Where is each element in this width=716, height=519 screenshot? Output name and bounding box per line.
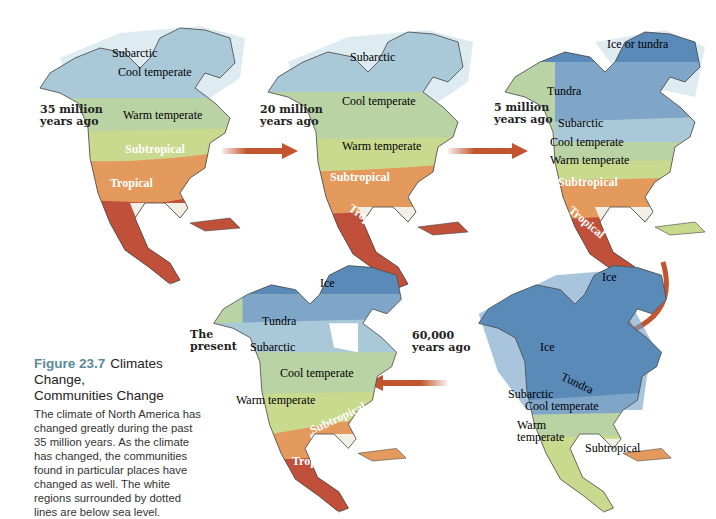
era-label-5-million: 5 million years ago	[494, 102, 553, 126]
zone-label: Ice	[320, 276, 335, 291]
figure-title-line2: Communities Change	[34, 388, 164, 403]
zone-label: Subarctic	[350, 50, 395, 65]
zone-label: Subtropical	[558, 175, 618, 190]
zone-label: Cool temperate	[525, 399, 599, 414]
figure-number: Figure 23.7	[34, 356, 105, 371]
era-label-present: The present	[190, 329, 237, 353]
map-the-present: Ice Tundra Subarctic Cool temperate Warm…	[200, 256, 415, 511]
zone-label: Subarctic	[558, 116, 603, 131]
zone-label: Ice	[540, 340, 555, 355]
zone-label: Subtropical	[330, 170, 390, 185]
zone-label: Cool temperate	[342, 94, 416, 109]
zone-label: Cool temperate	[118, 65, 192, 80]
zone-label: Subarctic	[250, 340, 295, 355]
zone-label: Subtropical	[585, 441, 640, 456]
figure-caption: Figure 23.7Climates Change, Communities …	[34, 356, 204, 519]
era-line: years ago	[40, 116, 103, 128]
map-60000-years-ago: Ice Ice Tundra Subarctic Cool temperate …	[465, 256, 680, 511]
zone-label: Ice or tundra	[607, 37, 668, 52]
era-line: years ago	[412, 342, 471, 354]
zone-label: temperate	[517, 430, 564, 445]
era-label-35-million: 35 million years ago	[40, 104, 103, 128]
figure-body: The climate of North America has changed…	[34, 407, 204, 519]
map-35-million-years-ago: Subarctic Cool temperate Warm temperate …	[30, 18, 245, 283]
era-line: years ago	[260, 116, 323, 128]
zone-label: Warm temperate	[236, 393, 315, 408]
map-5-million-years-ago: Ice or tundra Tundra Subarctic Cool temp…	[495, 22, 710, 287]
figure-title: Figure 23.7Climates Change, Communities …	[34, 356, 204, 404]
zone-label: Tundra	[262, 314, 296, 329]
zone-label: Subarctic	[112, 46, 157, 61]
map-20-million-years-ago: Subarctic Cool temperate Warm temperate …	[258, 22, 473, 287]
era-line: present	[190, 341, 237, 353]
zone-label: Tropical	[292, 454, 335, 469]
zone-label: Warm temperate	[123, 108, 202, 123]
zone-label: Tropical	[110, 176, 153, 191]
north-america-map	[200, 256, 415, 511]
era-label-60000: 60,000 years ago	[412, 330, 471, 354]
zone-label: Warm temperate	[550, 153, 629, 168]
zone-label: Tundra	[547, 84, 581, 99]
era-label-20-million: 20 million years ago	[260, 104, 323, 128]
era-line: years ago	[494, 114, 553, 126]
zone-label: Ice	[602, 270, 617, 285]
zone-label: Warm temperate	[342, 139, 421, 154]
zone-label: Cool temperate	[280, 366, 354, 381]
zone-label: Subtropical	[125, 142, 185, 157]
zone-label: Cool temperate	[550, 135, 624, 150]
